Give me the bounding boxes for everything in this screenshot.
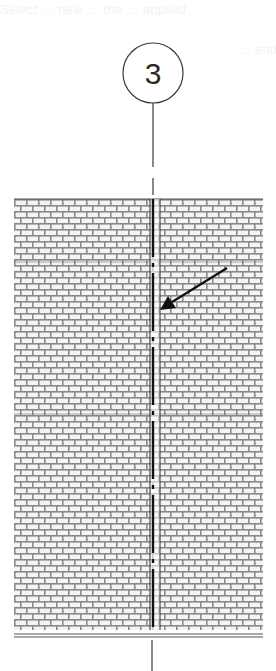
grid-bubble: 3	[123, 43, 183, 103]
grid-bubble-label: 3	[145, 57, 162, 90]
brick-wall	[14, 199, 263, 630]
brick-hatch	[14, 199, 263, 630]
control-joint	[150, 199, 160, 630]
ground-line	[14, 634, 263, 637]
elevation-drawing: 3	[0, 0, 276, 671]
